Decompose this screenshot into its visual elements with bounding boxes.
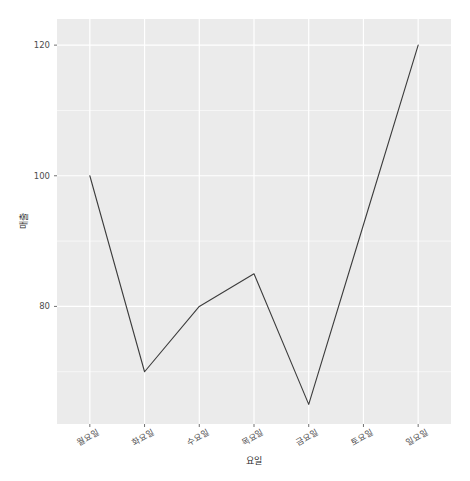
y-axis-tick-label: 120 [34,40,50,50]
y-axis-tick-label: 80 [39,301,50,311]
y-axis-title: 매출 [19,213,29,229]
y-axis-tick-label: 100 [34,171,50,181]
chart-container: 12010080 월요일화요일수요일목요일금요일토요일일요일 매출 요일 [0,0,470,481]
x-axis-title: 요일 [246,456,262,466]
line-chart: 12010080 월요일화요일수요일목요일금요일토요일일요일 매출 요일 [0,0,470,481]
